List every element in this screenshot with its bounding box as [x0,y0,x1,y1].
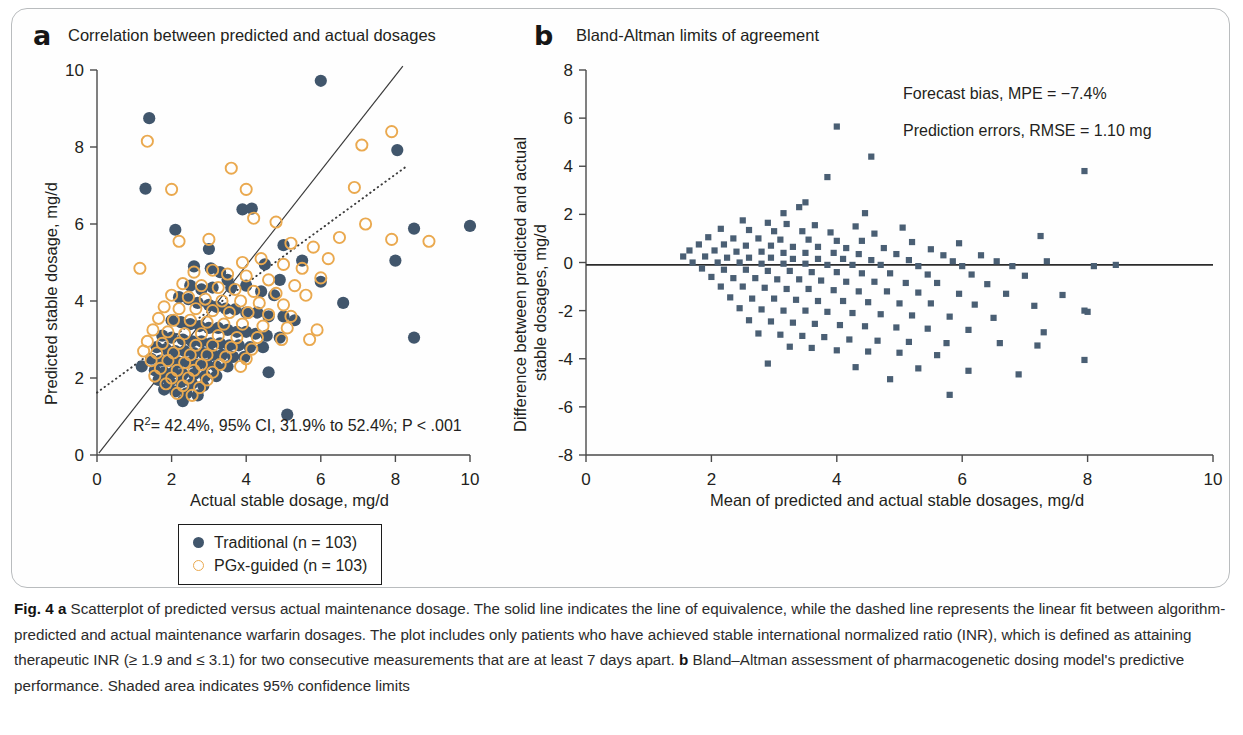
data-point [802,250,808,256]
data-point [787,268,793,274]
data-point [834,238,840,244]
x-tick-label: 8 [1083,470,1092,489]
y-tick-label: -4 [558,350,573,369]
data-point [824,174,830,180]
data-point [765,220,771,226]
data-point [959,263,965,269]
data-point [824,262,830,268]
data-point [1041,329,1047,335]
data-point [815,298,821,304]
data-point [893,324,899,330]
data-point [915,365,921,371]
data-point [737,305,743,311]
data-point [947,392,953,398]
data-point [780,308,786,314]
data-point [1003,291,1009,297]
filled-circle-icon [189,537,207,548]
data-point [862,210,868,216]
data-point [737,259,743,265]
data-point [893,251,899,257]
data-point [752,275,758,281]
data-point [1044,258,1050,264]
open-circle-icon [189,560,207,571]
data-point [809,269,815,275]
data-point [755,330,761,336]
data-point [796,204,802,210]
data-point [787,344,793,350]
data-point [1081,168,1087,174]
data-point [686,247,692,253]
data-point [925,326,931,332]
data-point [765,268,771,274]
data-point [733,249,739,255]
data-point [840,256,846,262]
data-point [887,376,893,382]
data-point [815,244,821,250]
y-tick-label: 2 [564,205,573,224]
data-point [730,235,736,241]
data-point [821,334,827,340]
data-point [746,227,752,233]
data-point [718,283,724,289]
x-tick-label: 0 [581,470,590,489]
data-point [950,258,956,264]
data-point [777,237,783,243]
data-point [878,262,884,268]
data-point [865,299,871,305]
data-point [969,271,975,277]
data-point [815,256,821,262]
data-point [881,245,887,251]
data-point [1091,263,1097,269]
x-tick-label: 2 [707,470,716,489]
data-point [705,234,711,240]
data-point [790,320,796,326]
data-point [862,323,868,329]
data-point [818,277,824,283]
data-point [702,253,708,259]
data-point [947,314,953,320]
data-point [840,298,846,304]
data-point [834,269,840,275]
data-point [1009,263,1015,269]
data-point [774,276,780,282]
data-point [689,259,695,265]
data-point [730,275,736,281]
data-point [758,261,764,267]
data-point [780,261,786,267]
panel-b-mpe-annotation: Forecast bias, MPE = −7.4% [903,85,1107,103]
data-point [699,265,705,271]
data-point [758,306,764,312]
data-point [915,263,921,269]
x-tick-label: 4 [832,470,841,489]
data-point [784,221,790,227]
legend-item-label: Traditional (n = 103) [214,534,357,552]
panel-a-legend: Traditional (n = 103)PGx-guided (n = 103… [178,524,382,585]
data-point [884,288,890,294]
data-point [868,257,874,263]
legend-item-pgx-guided: PGx-guided (n = 103) [189,554,367,577]
data-point [727,294,733,300]
data-point [909,312,915,318]
data-point [784,286,790,292]
data-point [849,310,855,316]
data-point [915,289,921,295]
y-tick-label: -8 [558,446,573,465]
data-point [1113,262,1119,268]
data-point [721,241,727,247]
data-point [824,309,830,315]
panel-b-rmse-annotation: Prediction errors, RMSE = 1.10 mg [903,122,1152,140]
data-point [812,222,818,228]
data-point [896,300,902,306]
data-point [721,267,727,273]
data-point [853,364,859,370]
data-point [859,270,865,276]
data-point [780,210,786,216]
data-point [711,247,717,253]
data-point [1022,273,1028,279]
data-point [771,295,777,301]
data-point [843,245,849,251]
data-point [997,340,1003,346]
data-point [799,333,805,339]
data-point [865,348,871,354]
data-point [724,255,730,261]
